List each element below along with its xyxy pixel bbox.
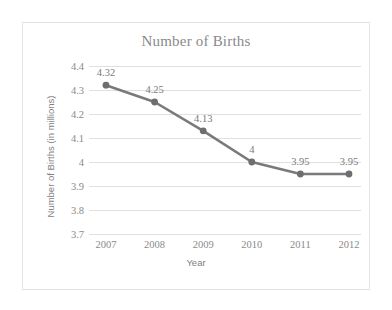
data-point-marker — [346, 171, 353, 178]
y-tick-label: 4 — [79, 157, 84, 168]
data-point-label: 4.25 — [145, 84, 163, 95]
gridline — [89, 234, 361, 235]
data-point-label: 4.13 — [194, 113, 212, 124]
x-tick-label: 2008 — [144, 239, 165, 250]
data-point-label: 3.95 — [291, 156, 309, 167]
y-axis-title: Number of Births (in millions) — [45, 67, 56, 247]
plot-area: 4.44.34.24.143.93.83.7 20072008200920102… — [89, 66, 361, 234]
y-tick-label: 3.9 — [71, 181, 84, 192]
data-point-marker — [248, 159, 255, 166]
data-point-label: 4 — [249, 144, 254, 155]
data-point-marker — [297, 171, 304, 178]
data-point-marker — [103, 82, 110, 89]
series-line — [106, 85, 349, 174]
x-tick-label: 2009 — [193, 239, 214, 250]
x-axis-title: Year — [23, 257, 369, 268]
y-tick-label: 4.2 — [71, 109, 84, 120]
x-tick-label: 2007 — [96, 239, 117, 250]
y-tick-label: 4.4 — [71, 61, 84, 72]
chart-frame: Number of Births Number of Births (in mi… — [22, 22, 370, 290]
y-tick-label: 3.8 — [71, 205, 84, 216]
x-tick-label: 2010 — [241, 239, 262, 250]
y-tick-label: 3.7 — [71, 229, 84, 240]
y-tick-label: 4.1 — [71, 133, 84, 144]
data-point-marker — [200, 127, 207, 134]
data-point-marker — [151, 99, 158, 106]
x-tick-label: 2011 — [290, 239, 311, 250]
line-series — [89, 66, 361, 234]
chart-title: Number of Births — [23, 33, 369, 50]
data-point-label: 4.32 — [97, 67, 115, 78]
y-tick-label: 4.3 — [71, 85, 84, 96]
data-point-label: 3.95 — [340, 156, 358, 167]
x-tick-label: 2012 — [339, 239, 360, 250]
